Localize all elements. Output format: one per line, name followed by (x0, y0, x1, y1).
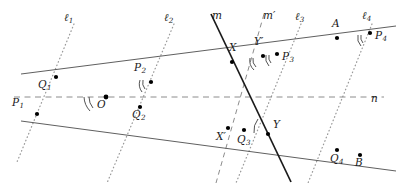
angle-arc-O-inner (89, 97, 93, 108)
label-point-Y: Y (273, 119, 280, 130)
label-line-l2: ℓ2 (164, 12, 173, 24)
label-point-B: B (355, 157, 363, 168)
angle-arc-Yprime-inner (253, 58, 256, 67)
label-line-l1: ℓ1 (64, 12, 73, 24)
geometry-figure: ℓ1 ℓ2 m m′ ℓ3 ℓ4 n Q1 P1 O P2 Q2 X Y′ P3… (0, 0, 399, 186)
point-X (230, 60, 234, 64)
label-point-A: A (332, 18, 340, 29)
label-point-P2: P2 (134, 62, 146, 74)
label-point-P3: P3 (282, 51, 294, 63)
point-P1 (35, 112, 39, 116)
label-point-Q3: Q3 (237, 134, 250, 146)
ray-upper-OA (21, 26, 396, 74)
line-l2 (107, 24, 174, 183)
line-l1 (17, 24, 74, 162)
point-P4 (368, 31, 372, 35)
point-P2 (149, 80, 153, 84)
point-X-prime (226, 126, 230, 130)
point-A (335, 36, 339, 40)
label-line-m-prime: m′ (263, 10, 275, 21)
label-point-X: X (229, 42, 236, 53)
label-point-Y-prime: Y′ (254, 36, 263, 47)
line-l3 (236, 24, 301, 183)
point-Y (266, 132, 270, 136)
point-Q1 (54, 75, 58, 79)
angle-arc-P4-inner (361, 35, 363, 43)
label-line-m: m (212, 10, 222, 21)
label-point-P4: P4 (375, 30, 387, 42)
label-line-l4: ℓ4 (362, 10, 371, 22)
label-point-Q2: Q2 (132, 109, 145, 121)
label-point-O: O (97, 99, 106, 110)
label-point-X-prime: X′ (216, 131, 226, 142)
angle-arc-P3-inner (269, 55, 271, 63)
point-P3 (275, 52, 279, 56)
label-point-Q1: Q1 (38, 79, 51, 91)
angle-arc-P2-inner (143, 80, 145, 89)
label-point-P1: P1 (12, 97, 24, 109)
label-line-n: n (371, 93, 378, 104)
label-point-Q4: Q4 (330, 153, 343, 165)
angle-arc-P2-outer (139, 80, 142, 92)
point-Y-prime (261, 54, 265, 58)
point-Q3 (242, 128, 246, 132)
label-line-l3: ℓ3 (295, 11, 304, 23)
